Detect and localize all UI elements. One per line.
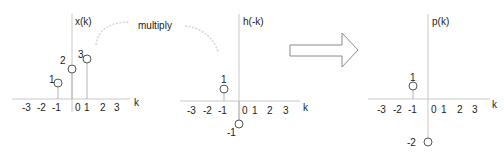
tick-label: -3 — [187, 105, 196, 116]
sample-marker — [54, 79, 62, 87]
sample-marker — [235, 120, 243, 128]
tick-label: 0 — [75, 102, 81, 113]
sample-marker — [424, 138, 432, 146]
sample-value: 3 — [78, 49, 84, 60]
sample-value: -2 — [407, 137, 416, 148]
panel-title: x(k) — [75, 16, 92, 27]
sample-value: -1 — [227, 127, 236, 138]
sample-marker — [68, 65, 76, 73]
right-arrow-icon — [290, 33, 358, 67]
axis-label-k: k — [134, 97, 140, 108]
tick-label: 2 — [100, 102, 106, 113]
tick-label: 2 — [267, 105, 273, 116]
tick-label: -2 — [37, 102, 46, 113]
tick-label: 0 — [431, 104, 437, 115]
tick-label: 1 — [252, 105, 258, 116]
tick-label: 3 — [472, 104, 478, 115]
tick-label: 1 — [441, 104, 447, 115]
sample-marker — [220, 85, 228, 93]
multiply-connector-curve-right — [185, 26, 218, 52]
tick-label: 2 — [457, 104, 463, 115]
tick-label: -1 — [218, 105, 227, 116]
sample-marker — [83, 55, 91, 63]
tick-label: 1 — [84, 102, 90, 113]
panel-title: p(k) — [432, 16, 449, 27]
panel-h: h(-k) k -3 -2 -1 0 1 2 3 1 -1 — [180, 14, 309, 138]
tick-label: 3 — [283, 105, 289, 116]
multiply-connector-curve — [96, 22, 130, 45]
tick-label: 0 — [242, 105, 248, 116]
sample-marker — [409, 82, 417, 90]
axis-label-k: k — [492, 99, 498, 110]
sample-value: 1 — [410, 72, 416, 83]
tick-label: -2 — [203, 105, 212, 116]
axis-label-k: k — [303, 102, 309, 113]
sample-value: 1 — [49, 74, 55, 85]
tick-label: -3 — [377, 104, 386, 115]
tick-label: -2 — [393, 104, 402, 115]
tick-label: -3 — [22, 102, 31, 113]
panel-title: h(-k) — [243, 16, 264, 27]
tick-label: -1 — [52, 102, 61, 113]
sample-value: 1 — [221, 74, 227, 85]
operation-label: multiply — [138, 20, 172, 31]
panel-x: x(k) k -3 -2 -1 0 1 2 3 1 2 3 — [12, 14, 140, 113]
panel-p: p(k) k -3 -2 -1 0 1 2 3 1 -2 — [368, 14, 498, 148]
tick-label: 3 — [114, 102, 120, 113]
sample-value: 2 — [60, 55, 66, 66]
convolution-diagram: multiply x(k) k -3 -2 -1 0 1 2 3 1 2 3 h… — [0, 0, 504, 156]
tick-label: -1 — [408, 104, 417, 115]
